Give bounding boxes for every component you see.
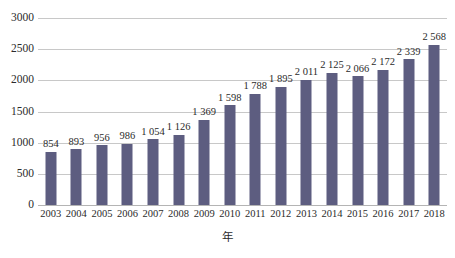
x-tick-label: 2008 (166, 209, 192, 220)
bar-value-label: 2 339 (397, 47, 421, 58)
bar-chart: 050010001500200025003000 8548939569861 0… (0, 0, 455, 258)
bar-value-label: 1 895 (269, 74, 293, 85)
bar-value-label: 2 568 (422, 32, 446, 43)
x-tick-label: 2009 (191, 209, 217, 220)
bar-slot: 2 172 (370, 18, 396, 205)
bar-slot: 1 054 (140, 18, 166, 205)
bar-slot: 1 126 (166, 18, 192, 205)
bar-slot: 1 369 (191, 18, 217, 205)
x-tick-label: 2005 (89, 209, 115, 220)
bar[interactable] (352, 76, 363, 205)
x-tick-label: 2006 (115, 209, 141, 220)
bar[interactable] (326, 73, 337, 205)
bar-slot: 2 339 (396, 18, 422, 205)
bar[interactable] (378, 70, 389, 205)
bar-slot: 1 788 (243, 18, 269, 205)
bar-value-label: 2 011 (295, 67, 318, 78)
bar-slot: 956 (89, 18, 115, 205)
bar[interactable] (173, 135, 184, 205)
bar-value-label: 2 066 (346, 64, 370, 75)
bar[interactable] (224, 105, 235, 205)
bar-value-label: 1 788 (243, 81, 267, 92)
bar-slot: 893 (64, 18, 90, 205)
bar-slot: 854 (38, 18, 64, 205)
bars: 8548939569861 0541 1261 3691 5981 7881 8… (38, 18, 447, 205)
bar-value-label: 986 (120, 131, 136, 142)
bar-value-label: 1 054 (141, 127, 165, 138)
x-tick-label: 2004 (64, 209, 90, 220)
bar[interactable] (301, 80, 312, 205)
x-tick-label: 2013 (294, 209, 320, 220)
y-tick-label: 2000 (11, 75, 34, 87)
bar[interactable] (199, 120, 210, 205)
plot-area: 8548939569861 0541 1261 3691 5981 7881 8… (38, 18, 447, 205)
bar-slot: 1 895 (268, 18, 294, 205)
y-tick-label: 1000 (11, 137, 34, 149)
bar[interactable] (122, 144, 133, 205)
bar-value-label: 2 125 (320, 60, 344, 71)
bar[interactable] (403, 59, 414, 205)
y-tick-label: 3000 (11, 12, 34, 24)
x-tick-label: 2016 (370, 209, 396, 220)
x-axis: 2003200420052006200720082009201020112012… (38, 209, 447, 225)
bar[interactable] (250, 94, 261, 205)
bar-value-label: 956 (94, 133, 110, 144)
x-tick-label: 2018 (421, 209, 447, 220)
y-axis: 050010001500200025003000 (0, 18, 34, 205)
bar-value-label: 2 172 (371, 57, 395, 68)
y-tick-label: 0 (28, 199, 34, 211)
x-tick-label: 2011 (243, 209, 269, 220)
x-tick-label: 2003 (38, 209, 64, 220)
bar[interactable] (275, 87, 286, 205)
bar-value-label: 1 369 (192, 107, 216, 118)
bar[interactable] (148, 139, 159, 205)
y-tick-label: 2500 (11, 43, 34, 55)
gridline (38, 205, 447, 206)
bar-slot: 2 568 (421, 18, 447, 205)
bar-slot: 2 066 (345, 18, 371, 205)
bar-value-label: 854 (43, 139, 59, 150)
bar-slot: 2 125 (319, 18, 345, 205)
x-tick-label: 2012 (268, 209, 294, 220)
bar-slot: 986 (115, 18, 141, 205)
y-tick-label: 500 (17, 168, 34, 180)
bar-value-label: 1 126 (167, 122, 191, 133)
x-tick-label: 2014 (319, 209, 345, 220)
bar[interactable] (71, 149, 82, 205)
y-tick-label: 1500 (11, 106, 34, 118)
bar[interactable] (45, 152, 56, 205)
x-tick-label: 2007 (140, 209, 166, 220)
bar-slot: 2 011 (294, 18, 320, 205)
bar-value-label: 893 (68, 137, 84, 148)
bar-slot: 1 598 (217, 18, 243, 205)
x-tick-label: 2017 (396, 209, 422, 220)
x-axis-title: 年 (0, 232, 455, 244)
x-tick-label: 2015 (345, 209, 371, 220)
x-tick-label: 2010 (217, 209, 243, 220)
bar[interactable] (96, 145, 107, 205)
bar[interactable] (429, 45, 440, 205)
bar-value-label: 1 598 (218, 93, 242, 104)
